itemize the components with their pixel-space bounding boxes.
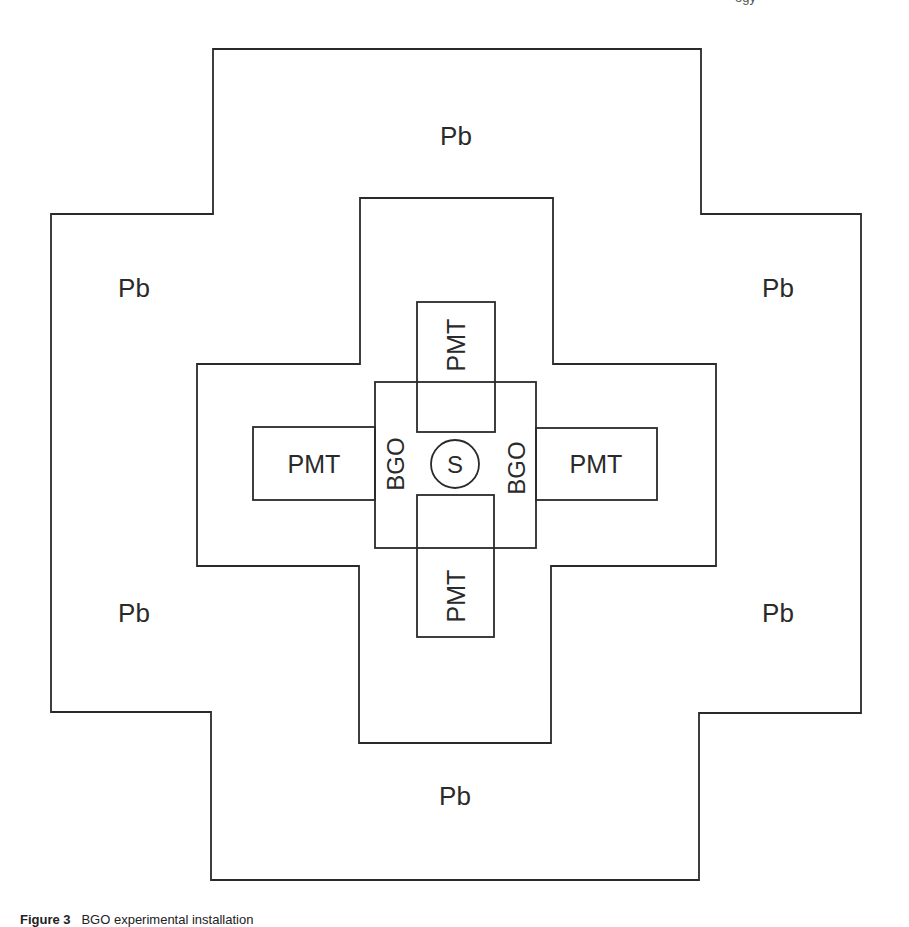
label-source: S: [447, 451, 463, 478]
figure-caption-text: BGO experimental installation: [81, 912, 253, 927]
figure-caption-label: Figure 3: [20, 912, 71, 927]
label-pmt-top: PMT: [442, 319, 470, 372]
label-lead-bottom: Pb: [439, 781, 471, 811]
label-lead-left-lower: Pb: [118, 598, 150, 628]
label-lead-right-lower: Pb: [762, 598, 794, 628]
figure-caption: Figure 3 BGO experimental installation: [20, 912, 253, 927]
label-pmt-bottom: PMT: [442, 570, 470, 623]
label-lead-left-upper: Pb: [118, 273, 150, 303]
label-pmt-left: PMT: [288, 450, 341, 478]
label-bgo-left: BGO: [382, 437, 409, 490]
label-lead-top: Pb: [440, 121, 472, 151]
label-pmt-right: PMT: [570, 450, 623, 478]
label-lead-right-upper: Pb: [762, 273, 794, 303]
label-bgo-right: BGO: [503, 441, 530, 494]
